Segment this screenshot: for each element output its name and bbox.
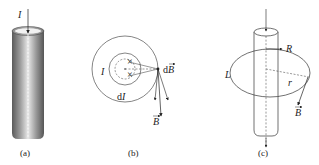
dI-mark-1: × [127,56,133,67]
B-label: B [295,107,301,118]
R-label: R [285,43,292,54]
current-label: I [100,66,105,77]
diagram-canvas: I (a) × × I dI dB B (b) [0,0,319,165]
r-label: r [288,77,292,88]
caption-a: (a) [20,148,30,158]
dB-arrow-left [155,69,158,100]
ray-lower [129,69,158,76]
amperian-loop-L [230,49,310,97]
dB-label: dB [163,64,174,75]
B-label: B [153,116,159,127]
panel-b: × × I dI dB B (b) [92,36,175,158]
B-tangent-arrow [298,77,308,105]
caption-c: (c) [258,148,268,158]
dI-label: dI [117,91,126,102]
L-label: L [224,69,231,80]
current-label: I [17,9,22,20]
panel-c: R L r B (c) [224,9,310,158]
r-line [266,69,309,77]
panel-a: I (a) [12,9,44,158]
ray-upper [129,62,158,69]
dI-mark-2: × [127,69,133,80]
caption-b: (b) [128,148,139,158]
